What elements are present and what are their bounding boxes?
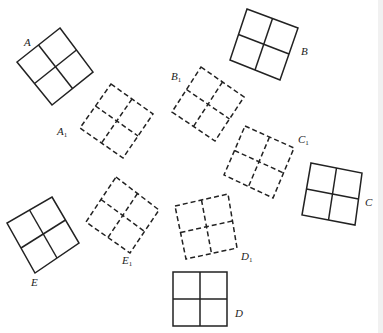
- label-e1: E1: [122, 255, 132, 268]
- solid-square-b: [230, 9, 298, 80]
- label-subscript: 1: [64, 131, 68, 139]
- label-e: E: [31, 277, 38, 288]
- label-b: B: [301, 46, 308, 57]
- dashed-square-a1: [80, 84, 153, 158]
- label-subscript: 1: [305, 139, 309, 147]
- label-a: A: [24, 37, 31, 48]
- label-letter: B: [171, 70, 178, 82]
- label-subscript: 1: [178, 76, 182, 84]
- label-c: C: [365, 197, 372, 208]
- label-letter: E: [31, 276, 38, 288]
- label-c1: C1: [298, 134, 309, 147]
- label-a1: A1: [57, 126, 67, 139]
- page-edge: [378, 0, 383, 333]
- diagram-canvas: ABCDEA1B1C1D1E1: [0, 0, 383, 333]
- label-b1: B1: [171, 71, 181, 84]
- label-letter: B: [301, 45, 308, 57]
- label-letter: A: [57, 125, 64, 137]
- solid-square-e: [7, 197, 79, 273]
- label-subscript: 1: [249, 256, 253, 264]
- label-d: D: [235, 308, 243, 319]
- label-subscript: 1: [129, 260, 133, 268]
- label-letter: D: [235, 307, 243, 319]
- label-d1: D1: [241, 251, 252, 264]
- label-letter: C: [365, 196, 372, 208]
- solid-square-d: [173, 272, 227, 326]
- squares-layer: [0, 0, 383, 333]
- label-letter: D: [241, 250, 249, 262]
- dashed-square-c1: [224, 126, 294, 198]
- label-letter: E: [122, 254, 129, 266]
- dashed-square-b1: [172, 67, 244, 141]
- label-letter: A: [24, 36, 31, 48]
- dashed-square-d1: [175, 194, 237, 259]
- dashed-square-e1: [86, 177, 159, 253]
- solid-square-c: [302, 163, 362, 225]
